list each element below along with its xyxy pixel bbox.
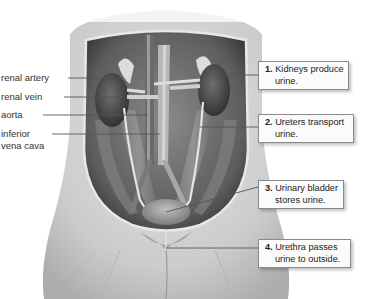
callout-text-line2: urine.: [265, 129, 349, 141]
callout-text-line2: urine.: [265, 76, 344, 88]
callout-number: 4.: [265, 242, 273, 252]
urinary-system-diagram: renal artery renal vein aorta inferior v…: [0, 0, 369, 299]
callout-urinary-bladder: 3. Urinary bladder stores urine.: [258, 180, 344, 209]
left-kidney: [95, 73, 129, 127]
callout-number: 3.: [265, 183, 273, 193]
callout-text-line1: Kidneys produce: [275, 64, 343, 74]
label-renal-artery: renal artery: [1, 72, 49, 84]
label-ivc-line1: inferior: [1, 128, 30, 139]
callout-number: 2.: [265, 117, 273, 127]
label-ivc-line2: vena cava: [1, 140, 44, 151]
callout-kidneys: 1. Kidneys produce urine.: [258, 61, 349, 90]
callout-text-line1: Ureters transport: [275, 117, 344, 127]
label-inferior-vena-cava: inferior vena cava: [1, 128, 44, 151]
callout-text-line1: Urinary bladder: [275, 183, 338, 193]
label-renal-vein: renal vein: [1, 91, 42, 103]
renal-artery: [127, 90, 145, 92]
callout-text-line1: Urethra passes: [275, 242, 337, 252]
callout-ureters: 2. Ureters transport urine.: [258, 114, 354, 143]
callout-text-line2: urine to outside.: [265, 254, 346, 266]
label-aorta: aorta: [1, 109, 23, 121]
callout-urethra: 4. Urethra passes urine to outside.: [258, 239, 351, 268]
callout-text-line2: stores urine.: [265, 195, 339, 207]
callout-number: 1.: [265, 64, 273, 74]
